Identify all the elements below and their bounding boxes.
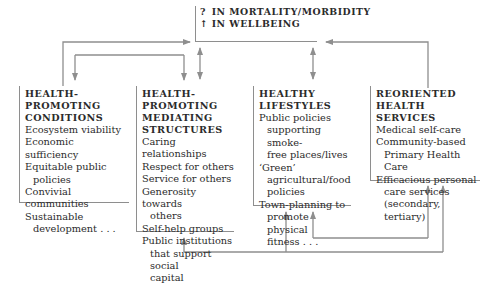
list-item: Efficacious personalcare services(second… [376,174,480,224]
item-text: Primary Health Care [376,149,480,174]
list-item: Economic sufficiency [25,136,129,161]
list-item: Ecosystem viability [25,124,129,136]
list-item: Respect for others [142,161,234,173]
box-title: HEALTH- PROMOTING CONDITIONS [25,88,129,124]
item-text: Community-based [376,136,466,147]
list-item: Generosity towardsothers [142,186,234,223]
item-text: Efficacious personal [376,174,477,185]
list-item: Equitable publicpolicies [25,161,129,186]
item-text: Convivial communities [25,186,89,209]
item-text: Public institutions [142,235,232,246]
item-text: Equitable public [25,161,107,172]
list-item: Self-help groups [142,223,234,235]
list-item: Medical self-care [376,124,480,136]
list-item: ‘Green’agricultural/foodpolicies [259,162,351,199]
item-text: policies [25,174,129,186]
outcome-mortality: ? IN MORTALITY/MORBIDITY [200,6,317,18]
list-item: Service for others [142,173,234,185]
box-title: HEALTH-PROMOTING MEDIATING STRUCTURES [142,88,234,136]
item-text: free places/lives [259,149,351,161]
item-text: capital [142,272,234,284]
item-text: that support social [142,248,234,273]
box-health-promoting-conditions: HEALTH- PROMOTING CONDITIONS Ecosystem v… [19,86,129,203]
item-text: development . . . [25,223,129,235]
item-text: policies [259,186,351,198]
list-item: Community-basedPrimary Health Care [376,136,480,173]
item-text: others [142,210,234,222]
item-text: agricultural/food [259,174,351,186]
list-item: Public policiessupporting smoke-free pla… [259,112,351,162]
outcome-wellbeing: ↑ IN WELLBEING [200,18,317,30]
item-text: Public policies [259,112,331,123]
item-text: Respect for others [142,161,234,172]
box-title: REORIENTED HEALTH SERVICES [376,88,480,124]
item-text: care services [376,186,480,198]
list-item: Public institutionsthat support socialca… [142,235,234,285]
item-text: supporting smoke- [259,124,351,149]
item-text: Generosity towards [142,186,196,209]
item-text: fitness . . . [259,236,351,248]
item-text: Service for others [142,173,231,184]
list-item: Sustainabledevelopment . . . [25,211,129,236]
down-arrow-icon: ? [200,6,208,18]
item-text: Medical self-care [376,124,461,135]
item-text: Caring relationships [142,136,207,159]
box-healthy-lifestyles: HEALTHY LIFESTYLES Public policiessuppor… [253,86,351,206]
item-text: Ecosystem viability [25,124,121,135]
item-text: (secondary, tertiary) [376,198,480,223]
box-mediating-structures: HEALTH-PROMOTING MEDIATING STRUCTURES Ca… [136,86,234,232]
list-item: Town-planning topromote physicalfitness … [259,199,351,249]
item-text: promote physical [259,211,351,236]
item-text: ‘Green’ [259,162,296,173]
box-reoriented-health-services: REORIENTED HEALTH SERVICES Medical self-… [370,86,480,181]
list-item: Convivial communities [25,186,129,211]
item-text: Sustainable [25,211,83,222]
up-arrow-icon: ↑ [200,18,208,30]
item-text: Self-help groups [142,223,223,234]
list-item: Caring relationships [142,136,234,161]
item-text: Economic sufficiency [25,136,78,159]
box-title: HEALTHY LIFESTYLES [259,88,351,112]
outcome-box: ? IN MORTALITY/MORBIDITY ↑ IN WELLBEING [195,6,317,42]
item-text: Town-planning to [259,199,345,210]
